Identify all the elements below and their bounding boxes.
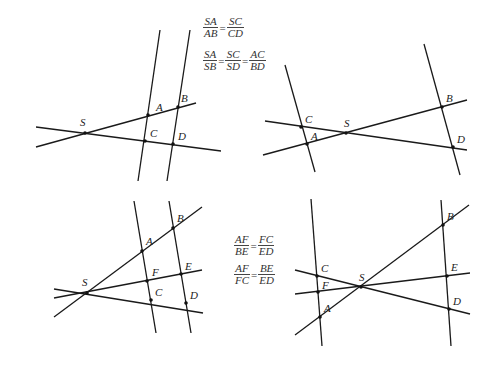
- fraction: SASB: [203, 49, 217, 72]
- numerator: SC: [226, 49, 241, 60]
- point-label-c: C: [321, 262, 329, 274]
- denominator: SB: [203, 60, 217, 72]
- numerator: AF: [234, 263, 249, 274]
- point-b: [171, 226, 175, 230]
- equals-sign: =: [250, 240, 256, 252]
- denominator: AB: [203, 27, 218, 39]
- point-a: [146, 113, 150, 117]
- formula-top-row1: SAAB = SCCD: [203, 16, 244, 39]
- fraction: SAAB: [203, 16, 218, 39]
- point-f: [316, 290, 320, 294]
- point-a: [318, 315, 322, 319]
- line-segment: [263, 100, 467, 155]
- point-label-s: S: [359, 271, 365, 283]
- point-label-b: B: [446, 92, 453, 104]
- denominator: SD: [225, 60, 240, 72]
- point-s: [359, 285, 363, 289]
- line-segment: [36, 103, 196, 147]
- point-c: [143, 139, 147, 143]
- point-label-f: F: [151, 266, 159, 278]
- point-label-d: D: [189, 289, 198, 301]
- diagram-top-right: CASBD: [263, 44, 467, 175]
- point-c: [149, 298, 153, 302]
- point-label-a: A: [323, 302, 331, 314]
- fraction: AFFC: [234, 263, 250, 286]
- numerator: SA: [203, 49, 217, 60]
- fraction: BEED: [258, 263, 275, 286]
- numerator: FC: [258, 234, 274, 245]
- fraction: AFBE: [234, 234, 249, 257]
- point-label-e: E: [450, 261, 458, 273]
- formula-bottom-row1: AFBE = FCED: [234, 234, 274, 257]
- point-a: [140, 249, 144, 253]
- point-s: [85, 291, 89, 295]
- denominator: ED: [258, 245, 275, 257]
- point-c: [315, 274, 319, 278]
- point-label-a: A: [310, 130, 318, 142]
- point-s: [83, 131, 87, 135]
- point-label-b: B: [181, 92, 188, 104]
- point-label-e: E: [184, 260, 192, 272]
- point-label-s: S: [82, 276, 88, 288]
- fraction: SCSD: [225, 49, 240, 72]
- point-s: [344, 131, 348, 135]
- point-label-c: C: [150, 127, 158, 139]
- point-label-b: B: [447, 210, 454, 222]
- numerator: SA: [204, 16, 218, 27]
- equals-sign: =: [242, 55, 248, 67]
- point-b: [440, 105, 444, 109]
- point-label-s: S: [344, 117, 350, 129]
- fraction: SCCD: [227, 16, 244, 39]
- point-e: [445, 274, 449, 278]
- point-label-a: A: [155, 101, 163, 113]
- point-label-a: A: [145, 235, 153, 247]
- point-d: [171, 142, 175, 146]
- numerator: SC: [228, 16, 243, 27]
- fraction: ACBD: [249, 49, 266, 72]
- diagram-top-left: SABCD: [36, 30, 221, 181]
- point-label-b: B: [177, 212, 184, 224]
- equals-sign: =: [218, 55, 224, 67]
- point-f: [145, 279, 149, 283]
- numerator: BE: [259, 263, 274, 274]
- denominator: BE: [234, 245, 249, 257]
- equals-sign: =: [251, 269, 257, 281]
- point-label-s: S: [80, 116, 86, 128]
- point-label-c: C: [155, 286, 163, 298]
- point-c: [299, 125, 303, 129]
- fraction: FCED: [258, 234, 275, 257]
- point-e: [179, 272, 183, 276]
- point-b: [176, 105, 180, 109]
- point-d: [447, 307, 451, 311]
- point-b: [441, 223, 445, 227]
- formula-bottom-row2: AFFC = BEED: [234, 263, 275, 286]
- numerator: AC: [249, 49, 265, 60]
- point-label-d: D: [456, 133, 465, 145]
- formula-top-row2: SASB = SCSD = ACBD: [203, 49, 266, 72]
- diagram-bottom-left: SABFECD: [54, 201, 203, 333]
- point-d: [451, 145, 455, 149]
- equals-sign: =: [219, 22, 225, 34]
- denominator: BD: [249, 60, 266, 72]
- point-d: [184, 301, 188, 305]
- point-label-c: C: [305, 113, 313, 125]
- denominator: FC: [234, 274, 250, 286]
- point-a: [305, 142, 309, 146]
- denominator: CD: [227, 27, 244, 39]
- diagram-bottom-right: CFASBED: [295, 199, 470, 346]
- point-label-f: F: [321, 279, 329, 291]
- numerator: AF: [234, 234, 249, 245]
- point-label-d: D: [177, 130, 186, 142]
- denominator: ED: [258, 274, 275, 286]
- point-label-d: D: [452, 295, 461, 307]
